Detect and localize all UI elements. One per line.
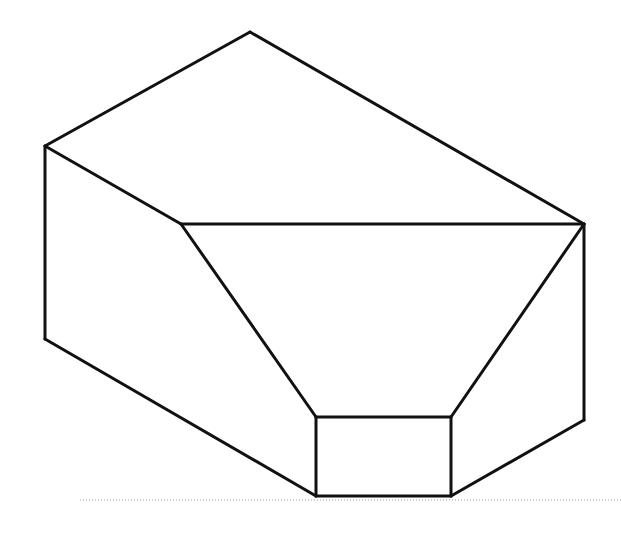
edge-apex-right_top [250,32,584,224]
edge-right_bottom-box_br [451,420,584,496]
edge-left_top-inner_left [45,146,181,224]
edge-apex-left_top [45,32,250,146]
isometric-shape-diagram [0,0,621,533]
edge-right_top-box_tr [451,224,584,417]
edge-left_bottom-box_bl [45,339,316,496]
edge-inner_left-box_tl [181,224,316,417]
shape-edges [45,32,584,496]
